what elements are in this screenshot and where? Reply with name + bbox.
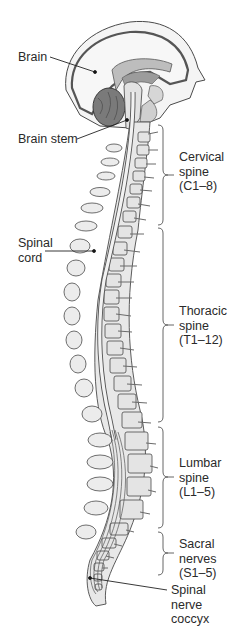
label-brain-stem: Brain stem <box>18 132 78 147</box>
label-cervical-spine: Cervical spine (C1–8) <box>179 150 224 194</box>
label-spinal-cord: Spinal cord <box>18 236 53 265</box>
bracket-thoracic <box>158 228 168 422</box>
bracket-lumbar <box>158 427 168 528</box>
bracket-cervical <box>158 125 168 225</box>
label-sacral-nerves: Sacral nerves (S1–5) <box>179 537 217 581</box>
label-lumbar-spine: Lumbar spine (L1–5) <box>179 456 221 500</box>
bracket-sacral <box>158 532 168 575</box>
label-thoracic-spine: Thoracic spine (T1–12) <box>179 304 227 348</box>
label-spinal-nerve-coccyx: Spinal nerve coccyx <box>171 583 209 627</box>
label-brain: Brain <box>18 50 47 65</box>
region-brackets <box>158 125 174 575</box>
